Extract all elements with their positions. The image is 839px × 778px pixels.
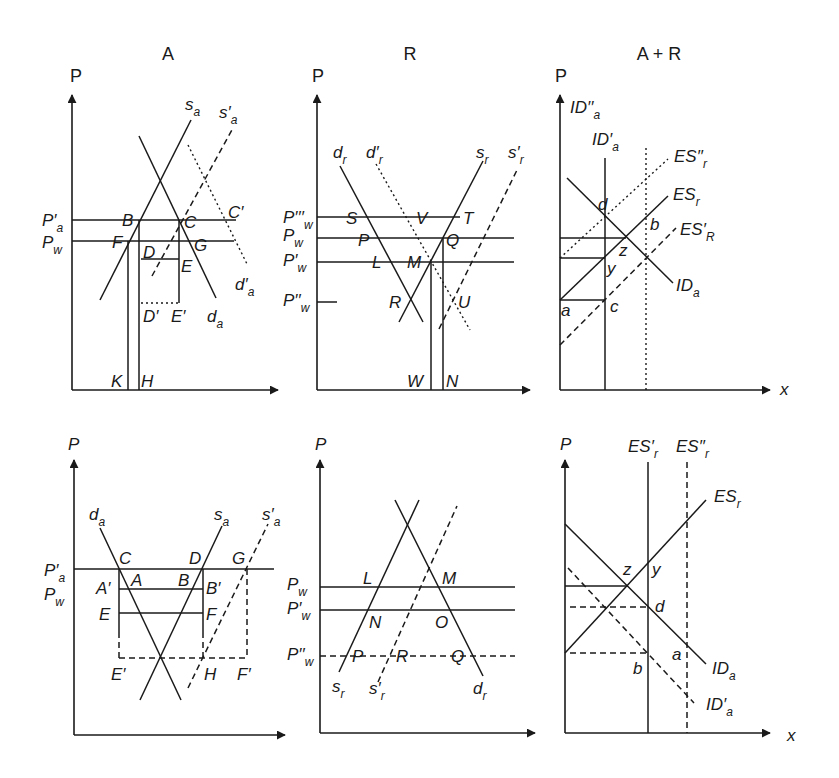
- point-label: ID′a: [706, 695, 733, 719]
- point-label: y: [606, 259, 617, 278]
- point-label: L: [363, 569, 372, 588]
- point-label: s′a: [219, 103, 238, 127]
- point-label: ID′′a: [570, 98, 600, 122]
- point-label: E′: [171, 307, 186, 326]
- point-label: A′: [95, 579, 111, 598]
- y-axis-label: P: [315, 435, 327, 454]
- point-label: K: [111, 372, 123, 391]
- x-axis-label: x: [779, 380, 789, 399]
- panel-top-A+R: A + RPxID′′aID′aES′′rESrES′RdbzyIDaac: [555, 44, 789, 399]
- trade-diagram: APsas′aP′aPwBCC′FGDEd′aD′E′daKHRPdrd′rsr…: [0, 0, 839, 778]
- panel-top-R: RPdrd′rsrs′rP′′′wPwP′wP′′wSVTPQLMRUWN: [283, 44, 530, 391]
- point-label: ES′′r: [674, 147, 708, 171]
- point-label: d′r: [366, 143, 384, 167]
- line-export-supply-ESr: [560, 196, 668, 300]
- point-label: P: [358, 231, 370, 250]
- point-label: a: [672, 645, 681, 664]
- point-label: G: [194, 236, 207, 255]
- point-label: N: [446, 372, 459, 391]
- point-label: D: [143, 243, 155, 262]
- panel-bottom-A: Pdasas′aP′aPwCDGA′ABB′EFE′HF′: [44, 435, 285, 735]
- panel-title: A + R: [637, 44, 682, 64]
- point-label: ESr: [673, 185, 701, 209]
- point-label: H: [141, 372, 154, 391]
- point-label: IDa: [712, 659, 736, 683]
- point-label: s′r: [369, 679, 386, 703]
- y-axis-label: P: [560, 435, 572, 454]
- point-label: dr: [333, 143, 347, 167]
- point-label: P′a: [44, 561, 66, 585]
- point-label: sa: [185, 95, 201, 119]
- point-label: P: [352, 647, 364, 666]
- point-label: L: [372, 253, 381, 272]
- line-demand-da: [139, 136, 216, 298]
- point-label: y: [651, 560, 662, 579]
- point-label: P′′w: [283, 291, 311, 315]
- y-axis-label: P: [312, 66, 324, 86]
- x-axis-label: x: [786, 726, 796, 745]
- point-label: R: [396, 647, 408, 666]
- y-axis-label: P: [555, 66, 567, 86]
- panel-top-A: APsas′aP′aPwBCC′FGDEd′aD′E′daKH: [42, 44, 278, 391]
- point-label: sr: [476, 143, 490, 167]
- point-label: z: [618, 241, 628, 260]
- point-label: s′r: [508, 143, 525, 167]
- point-label: d′a: [235, 275, 255, 299]
- point-label: E′: [111, 665, 126, 684]
- point-label: ES′r: [628, 437, 659, 461]
- point-label: E: [99, 605, 111, 624]
- panel-title: R: [404, 44, 417, 64]
- point-label: P′w: [283, 251, 308, 275]
- line-import-demand-IDa: [565, 524, 706, 664]
- point-label: S: [346, 209, 358, 228]
- point-label: C: [119, 549, 132, 568]
- point-label: c: [610, 297, 619, 316]
- point-label: Pw: [283, 226, 304, 250]
- point-label: R: [389, 293, 401, 312]
- point-label: F′: [237, 665, 251, 684]
- point-label: dr: [473, 679, 487, 703]
- point-label: C: [184, 213, 197, 232]
- y-axis-label: P: [68, 435, 80, 454]
- point-label: z: [622, 560, 632, 579]
- point-label: sa: [214, 505, 230, 529]
- y-axis-label: P: [70, 66, 82, 86]
- line-import-demand-IDa-prime: [568, 568, 694, 703]
- point-label: sr: [332, 677, 346, 701]
- line-export-supply-ESr: [565, 500, 706, 653]
- point-label: M: [407, 253, 422, 272]
- point-label: F: [112, 233, 124, 252]
- point-label: A: [130, 571, 142, 590]
- point-label: B: [178, 571, 189, 590]
- point-label: M: [442, 569, 457, 588]
- point-label: D: [189, 549, 201, 568]
- point-label: Q: [451, 647, 464, 666]
- point-label: O: [435, 613, 448, 632]
- point-label: Pw: [42, 233, 63, 257]
- point-label: d: [655, 597, 665, 616]
- line-supply-sr: [399, 161, 483, 322]
- point-label: D′: [143, 307, 159, 326]
- point-label: s′a: [262, 505, 281, 529]
- point-label: Q: [446, 231, 459, 250]
- point-label: U: [458, 293, 471, 312]
- point-label: N: [369, 613, 382, 632]
- point-label: W: [407, 372, 425, 391]
- point-label: ES′R: [680, 220, 715, 244]
- point-label: P′′w: [287, 645, 315, 669]
- point-label: da: [89, 505, 105, 529]
- panel-bottom-A+R: PxES′rES′′rESrzydabIDaID′a: [560, 435, 796, 745]
- point-label: d: [598, 195, 608, 214]
- point-label: V: [416, 209, 429, 228]
- point-label: F: [206, 605, 218, 624]
- line-export-supply-ESR-prime: [560, 228, 676, 345]
- point-label: a: [561, 301, 570, 320]
- point-label: G: [232, 549, 245, 568]
- point-label: B: [122, 211, 133, 230]
- point-label: H: [204, 665, 217, 684]
- point-label: ID′a: [592, 130, 619, 154]
- point-label: B′: [206, 579, 221, 598]
- point-label: T: [463, 209, 475, 228]
- point-label: Pw: [44, 585, 65, 609]
- panel-bottom-R: PLMPwP′wP′′wNOPRQsrs′rdr: [287, 435, 535, 733]
